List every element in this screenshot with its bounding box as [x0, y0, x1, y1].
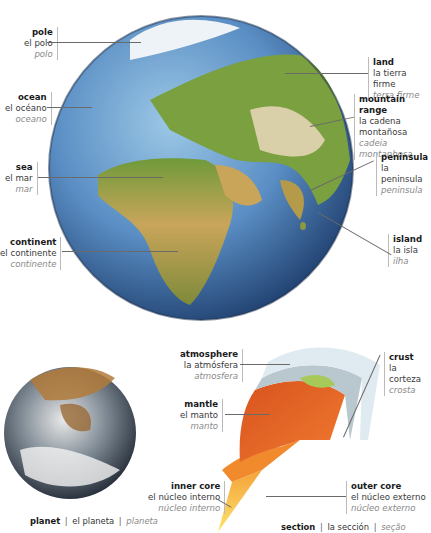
- globe-image: [49, 16, 353, 320]
- leader-line-ocean: [47, 107, 92, 108]
- leader-line-mantle: [225, 414, 270, 415]
- caption-es: la sección: [327, 522, 369, 532]
- label-es: la isla: [393, 245, 422, 256]
- label-continent: continent el continente continente: [0, 237, 61, 270]
- label-en: crust: [389, 352, 431, 363]
- caption-en: section: [281, 522, 315, 532]
- label-inner-core: inner core el núcleo interno núcleo inte…: [148, 481, 225, 514]
- section-caption: section | la sección | seção: [281, 522, 406, 532]
- label-es: el mar: [5, 173, 33, 184]
- label-es: el núcleo externo: [351, 492, 426, 503]
- label-en: sea: [5, 162, 33, 173]
- caption-pt: planeta: [126, 516, 158, 526]
- label-outer-core: outer core el núcleo externo núcleo exte…: [346, 481, 426, 514]
- label-es: el manto: [180, 410, 218, 421]
- label-en: mountain range: [359, 94, 431, 116]
- label-es: la cadena: [359, 116, 431, 127]
- caption-separator: |: [372, 522, 379, 532]
- label-es: el polo: [24, 38, 53, 49]
- label-pt: ilha: [393, 256, 422, 267]
- label-mountain-range: mountain range la cadena montañosa cadei…: [354, 94, 431, 160]
- label-es: la tierra firme: [373, 68, 431, 90]
- caption-separator: |: [63, 516, 70, 526]
- label-island: island la isla ilha: [388, 234, 422, 267]
- label-pt: polo: [24, 49, 53, 60]
- label-pt: núcleo externo: [351, 503, 426, 514]
- label-en: island: [393, 234, 422, 245]
- label-pole: pole el polo polo: [24, 27, 58, 60]
- caption-en: planet: [30, 516, 60, 526]
- label-en: inner core: [148, 481, 220, 492]
- label-en: pole: [24, 27, 53, 38]
- label-pt: continente: [0, 259, 56, 270]
- leader-line-outer-core: [266, 496, 346, 497]
- leader-line-atmosphere: [240, 364, 290, 365]
- label-pt: mar: [5, 184, 33, 195]
- label-es: la corteza: [389, 363, 431, 385]
- label-pt: manto: [180, 421, 218, 432]
- label-en: ocean: [5, 92, 47, 103]
- caption-separator: |: [117, 516, 124, 526]
- label-es: el continente: [0, 248, 56, 259]
- label-peninsula: peninsula la peninsula peninsula: [376, 152, 431, 196]
- label-en: atmosphere: [180, 349, 238, 360]
- caption-separator: |: [318, 522, 325, 532]
- label-es: la peninsula: [381, 163, 431, 185]
- label-pt: peninsula: [381, 185, 431, 196]
- label-mantle: mantle el manto manto: [180, 399, 223, 432]
- label-es: el núcleo interno: [148, 492, 220, 503]
- label-ocean: ocean el océano oceano: [5, 92, 52, 125]
- label-pt: oceano: [5, 114, 47, 125]
- label-en: land: [373, 57, 431, 68]
- leader-line-sea: [38, 177, 163, 178]
- planet-caption: planet | el planeta | planeta: [30, 516, 158, 526]
- label-en: peninsula: [381, 152, 431, 163]
- caption-pt: seção: [381, 522, 405, 532]
- leader-line-pole: [47, 42, 141, 43]
- leader-line-land: [285, 73, 368, 74]
- label-sea: sea el mar mar: [5, 162, 38, 195]
- label-crust: crust la corteza crosta: [384, 352, 431, 396]
- leader-line-continent: [62, 251, 178, 252]
- label-en: mantle: [180, 399, 218, 410]
- label-atmosphere: atmosphere la atmósfera atmosfera: [180, 349, 243, 382]
- label-en: outer core: [351, 481, 426, 492]
- illustrations: [0, 0, 431, 533]
- label-es: el océano: [5, 103, 47, 114]
- label-pt: atmosfera: [180, 371, 238, 382]
- label-en: continent: [0, 237, 56, 248]
- label-pt: crosta: [389, 385, 431, 396]
- planet-image: [4, 367, 136, 499]
- label-pt: núcleo interno: [148, 503, 220, 514]
- caption-es: el planeta: [72, 516, 114, 526]
- label-es: la atmósfera: [180, 360, 238, 371]
- label-es-line2: montañosa: [359, 127, 431, 138]
